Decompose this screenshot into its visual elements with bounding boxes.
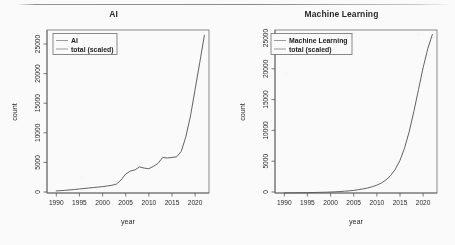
x-tick-label: 1990 [49,199,64,206]
x-tick-label: 2015 [165,199,180,206]
y-axis-ai: 0 5000 10000 15000 20000 25000 [34,30,47,194]
x-tick-label: 1995 [300,199,315,206]
y-tick-label: 15000 [34,94,41,113]
x-tick-label: 1995 [72,199,87,206]
y-tick-label: 15000 [262,90,269,109]
legend-entry: Machine Learning [289,37,348,45]
x-tick-label: 2000 [323,199,338,206]
x-axis-ai: 1990 1995 2000 2005 2010 2015 2020 [47,193,209,206]
chart-panel-machine-learning: Machine Learning 0 5000 10000 15000 2000… [228,0,455,245]
y-axis-title-machine-learning: count [238,103,247,121]
legend-ai: AI total (scaled) [53,34,117,55]
legend-entry: AI [71,37,78,44]
x-tick-label: 2020 [416,199,431,206]
plot-svg-machine-learning: 0 5000 10000 15000 20000 25000 count 199… [228,0,455,245]
y-tick-label: 25000 [34,35,41,54]
legend-entry: total (scaled) [71,46,114,54]
legend-entry: total (scaled) [289,46,332,54]
y-tick-label: 0 [262,190,269,194]
y-tick-label: 25000 [262,29,269,48]
y-tick-label: 5000 [34,155,41,170]
y-tick-label: 20000 [262,59,269,78]
y-axis-title-ai: count [10,103,19,121]
x-tick-label: 1990 [277,199,292,206]
y-tick-label: 10000 [34,123,41,142]
x-axis-machine-learning: 1990 1995 2000 2005 2010 2015 2020 [275,193,437,206]
plot-svg-ai: 0 5000 10000 15000 20000 25000 count 199… [0,0,227,245]
x-tick-label: 2005 [346,199,361,206]
x-axis-title-ai: year [121,217,136,226]
chart-panel-ai: AI 0 5000 10000 15000 20000 25000 count [0,0,227,245]
y-tick-label: 10000 [262,121,269,140]
x-tick-label: 2020 [188,199,203,206]
x-tick-label: 2005 [118,199,133,206]
x-tick-label: 2010 [142,199,157,206]
legend-machine-learning: Machine Learning total (scaled) [271,34,352,55]
data-line-ai [56,35,204,191]
y-tick-label: 5000 [262,154,269,169]
y-tick-label: 0 [34,190,41,194]
data-line-machine-learning [284,34,432,192]
y-tick-label: 20000 [34,64,41,83]
x-tick-label: 2010 [370,199,385,206]
x-tick-label: 2015 [393,199,408,206]
x-tick-label: 2000 [95,199,110,206]
x-axis-title-machine-learning: year [349,217,364,226]
